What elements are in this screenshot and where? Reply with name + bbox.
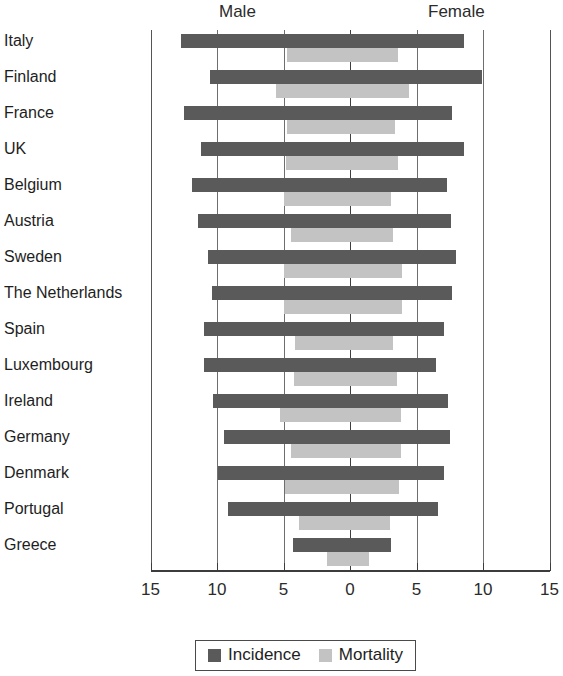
legend-entry: Mortality [319,645,403,665]
axis-tick-label: 10 [474,580,493,600]
female-side-label: Female [428,2,485,22]
category-label: Portugal [4,501,140,517]
category-label: Italy [4,33,140,49]
category-label: UK [4,141,140,157]
category-label: Greece [4,537,140,553]
bar-mortality [280,408,401,422]
bar-incidence [212,286,453,300]
bar-mortality [287,48,397,62]
bar-incidence [210,70,481,84]
gridline-15 [550,30,551,570]
axis-tick-label: 0 [345,580,354,600]
bar-mortality [294,372,396,386]
legend-label: Mortality [339,645,403,665]
category-label: Germany [4,429,140,445]
bar-incidence [201,142,464,156]
bar-mortality [284,300,402,314]
bar-incidence [218,466,444,480]
bar-mortality [299,516,389,530]
axis-tick-label: 5 [412,580,421,600]
male-side-label: Male [219,2,256,22]
bar-mortality [287,120,395,134]
category-label: France [4,105,140,121]
bar-incidence [293,538,391,552]
bar-incidence [181,34,464,48]
bar-incidence [213,394,448,408]
axis-tick-label: 15 [540,580,559,600]
category-label: Luxembourg [4,357,140,373]
category-label: Ireland [4,393,140,409]
bar-mortality [285,480,399,494]
bar-incidence [228,502,438,516]
bar-mortality [327,552,368,566]
bar-incidence [204,358,437,372]
bar-mortality [284,264,402,278]
bar-mortality [286,156,398,170]
square-swatch-light-icon [319,649,332,662]
bar-incidence [184,106,453,120]
bar-mortality [284,192,392,206]
axis-tick [217,563,218,571]
plot-area [151,30,550,570]
axis-tick [550,563,551,571]
bar-mortality [291,444,400,458]
bar-incidence [192,178,447,192]
legend-entry: Incidence [208,645,301,665]
bar-mortality [295,336,392,350]
category-label: Sweden [4,249,140,265]
category-axis-labels: ItalyFinlandFranceUKBelgiumAustriaSweden… [0,30,150,570]
category-label: The Netherlands [4,285,140,301]
axis-tick [483,563,484,571]
chart-container: Male Female ItalyFinlandFranceUKBelgiumA… [0,0,563,676]
gridline-10 [483,30,484,570]
axis-tick-label: 5 [279,580,288,600]
category-label: Finland [4,69,140,85]
axis-tick [284,563,285,571]
category-label: Denmark [4,465,140,481]
bar-mortality [291,228,392,242]
category-label: Spain [4,321,140,337]
axis-tick-label: 15 [141,580,160,600]
bar-incidence [224,430,450,444]
chart-legend: IncidenceMortality [195,640,416,671]
category-label: Belgium [4,177,140,193]
value-axis: 15105051015 [151,570,550,571]
legend-label: Incidence [228,645,301,665]
axis-tick-label: 10 [208,580,227,600]
category-label: Austria [4,213,140,229]
gridline--15 [151,30,152,570]
axis-tick [151,563,152,571]
axis-tick [417,563,418,571]
bar-mortality [276,84,409,98]
bar-incidence [204,322,445,336]
bar-incidence [208,250,457,264]
bar-incidence [198,214,451,228]
square-swatch-dark-icon [208,649,221,662]
gender-header-row: Male Female [0,0,563,28]
